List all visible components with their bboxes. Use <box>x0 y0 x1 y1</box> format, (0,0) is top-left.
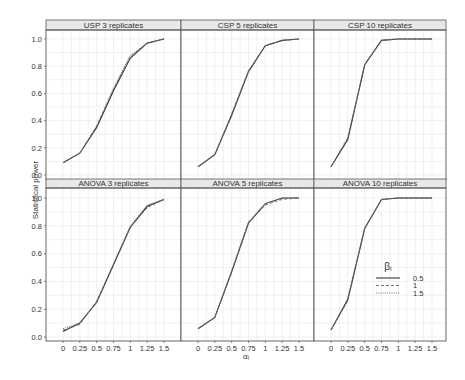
facet-title: ANOVA 10 replicates <box>343 179 418 188</box>
facet-panel: USP 3 replicates <box>46 20 181 180</box>
y-tick-label: 0.6 <box>32 89 42 98</box>
y-tick-label: 0.0 <box>32 333 42 342</box>
y-tick-label: 0.8 <box>32 62 42 71</box>
panels-group: USP 3 replicatesCSP 5 replicatesCSP 10 r… <box>46 20 446 341</box>
x-tick-label: 0.75 <box>106 344 121 353</box>
x-tick-label: 0.25 <box>73 344 88 353</box>
x-tick-label: 0.25 <box>208 344 223 353</box>
y-tick-label: 1.0 <box>32 35 42 44</box>
x-tick-label: 0 <box>196 344 200 353</box>
x-axis-label: αᵢ <box>243 352 249 361</box>
facet-panel: ANOVA 5 replicates <box>181 179 314 341</box>
panel-background <box>181 188 314 341</box>
x-tick-label: 1 <box>263 344 267 353</box>
facet-title: CSP 10 replicates <box>348 21 412 30</box>
facet-title: USP 3 replicates <box>84 21 143 30</box>
x-tick-label: 1.5 <box>294 344 304 353</box>
facet-panel: CSP 5 replicates <box>181 20 314 180</box>
faceted-power-chart: USP 3 replicatesCSP 5 replicatesCSP 10 r… <box>0 0 465 380</box>
x-tick-label: 0.25 <box>341 344 356 353</box>
x-tick-label: 0 <box>329 344 333 353</box>
x-tick-label: 0 <box>61 344 65 353</box>
x-tick-label: 1.25 <box>408 344 423 353</box>
facet-panel: CSP 10 replicates <box>314 20 446 180</box>
chart-canvas: USP 3 replicatesCSP 5 replicatesCSP 10 r… <box>0 0 465 380</box>
x-tick-label: 1 <box>128 344 132 353</box>
x-tick-label: 0.5 <box>91 344 101 353</box>
x-tick-label: 1.25 <box>275 344 290 353</box>
x-tick-label: 1.25 <box>140 344 155 353</box>
y-tick-label: 0.8 <box>32 222 42 231</box>
facet-panel: ANOVA 10 replicates <box>314 179 446 341</box>
x-tick-label: 0.5 <box>359 344 369 353</box>
y-tick-label: 0.2 <box>32 305 42 314</box>
facet-title: ANOVA 3 replicates <box>78 179 148 188</box>
y-tick-label: 0.4 <box>32 277 42 286</box>
x-tick-label: 1.5 <box>427 344 437 353</box>
facet-panel: ANOVA 3 replicates <box>46 179 181 341</box>
legend-label: 1.5 <box>413 289 423 298</box>
facet-title: CSP 5 replicates <box>218 21 277 30</box>
y-axis-label: Statistical power <box>31 161 40 220</box>
legend-title: βᵢ <box>384 261 392 272</box>
facet-title: ANOVA 5 replicates <box>212 179 282 188</box>
x-tick-label: 0.75 <box>374 344 389 353</box>
y-tick-label: 0.6 <box>32 249 42 258</box>
x-tick-label: 1 <box>396 344 400 353</box>
x-tick-label: 1.5 <box>159 344 169 353</box>
panel-background <box>314 188 446 341</box>
y-tick-label: 0.4 <box>32 116 42 125</box>
y-tick-label: 0.2 <box>32 144 42 153</box>
x-axes-group: 00.250.50.7511.251.500.250.50.7511.251.5… <box>61 341 437 353</box>
x-tick-label: 0.5 <box>226 344 236 353</box>
